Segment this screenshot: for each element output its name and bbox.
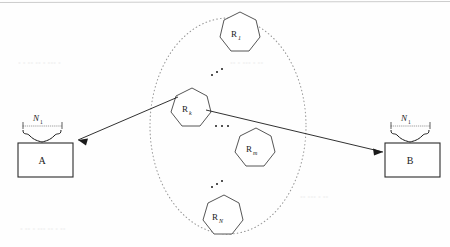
- relay-network-diagram: • • •• •• • ••• • •• • ••• • •• • •• • •…: [0, 0, 450, 247]
- relay-node-r1: R 1: [220, 12, 260, 51]
- svg-text:•• ••• • ••: •• ••• • ••: [300, 193, 329, 202]
- relay-node-rm-shape: [235, 128, 275, 166]
- node-box-a-brace: [23, 130, 61, 142]
- relay-node-rk-label: R: [182, 104, 188, 114]
- node-box-b-brace: [391, 130, 429, 142]
- node-box-a-brace-label: N: [32, 113, 40, 123]
- node-box-b-label: B: [407, 155, 414, 166]
- relay-node-r1-shape: [220, 12, 260, 51]
- node-box-b: B N 1: [385, 113, 440, 177]
- relay-node-r1-subscript: 1: [238, 35, 241, 41]
- relay-node-rn-label: R: [212, 212, 218, 222]
- node-box-b-brace-label: N: [400, 113, 408, 123]
- svg-text:•• • ••• • ••: •• • ••• • ••: [230, 59, 263, 68]
- node-box-a: A N 1: [18, 113, 73, 177]
- relay-node-rn-shape: [203, 195, 243, 234]
- relay-node-rk-shape: [171, 88, 211, 126]
- relay-node-rk: R k: [171, 88, 211, 126]
- relay-node-r1-label: R: [231, 29, 237, 39]
- scan-artifact-line: [0, 2, 450, 3]
- relay-node-rm: R m: [235, 128, 275, 166]
- ellipsis-rk-rm: [215, 125, 229, 127]
- node-box-a-label: A: [38, 155, 46, 166]
- relay-node-rn: R N: [203, 195, 243, 234]
- relay-node-rm-subscript: m: [253, 150, 258, 156]
- ellipsis-r1-rk: [211, 68, 223, 76]
- node-box-a-brace-subscript: 1: [40, 119, 43, 125]
- arrow-rk-to-b-head: [373, 149, 383, 156]
- arrow-rk-to-b: [206, 110, 383, 156]
- figure-canvas: • • •• •• • ••• • •• • ••• • •• • •• • •…: [0, 0, 450, 247]
- relay-node-rm-label: R: [246, 144, 252, 154]
- arrow-rk-to-a: [78, 97, 178, 146]
- ellipsis-rm-rn: [211, 180, 223, 188]
- relay-node-rk-subscript: k: [189, 110, 192, 116]
- svg-text:• •• • ••• •• • ••: • •• • ••• •• • ••: [20, 225, 66, 234]
- node-box-b-brace-subscript: 1: [408, 119, 411, 125]
- svg-text:• • •• •• • ••• •: • • •• •• • ••• •: [18, 59, 61, 68]
